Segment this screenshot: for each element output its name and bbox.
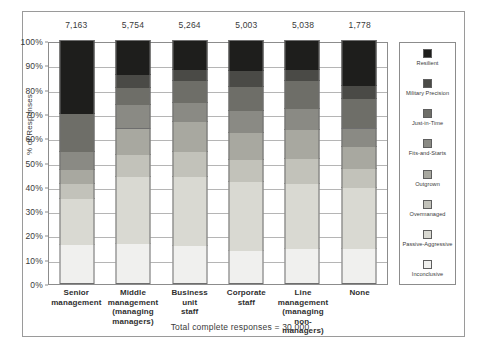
x-axis-label-line: Middle	[106, 288, 161, 298]
bar-segment[interactable]	[116, 243, 151, 284]
y-tick-mark	[45, 236, 48, 237]
bar-segment[interactable]	[341, 40, 376, 86]
bar-segment[interactable]	[116, 87, 151, 105]
y-tick-mark	[45, 187, 48, 188]
bar-segment[interactable]	[116, 40, 151, 75]
bar-segment[interactable]	[116, 104, 151, 128]
y-tick-mark	[45, 285, 48, 286]
stacked-bar[interactable]	[172, 43, 207, 284]
bar-segment[interactable]	[229, 86, 264, 111]
legend-item[interactable]: Fits-and-Starts	[400, 139, 455, 157]
y-tick-mark	[45, 139, 48, 140]
bar-slot	[105, 43, 161, 284]
bar-segment[interactable]	[229, 132, 264, 160]
stacked-bar[interactable]	[285, 43, 320, 284]
bar-segment[interactable]	[285, 248, 320, 284]
legend-swatch-icon	[423, 109, 432, 118]
stacked-bar[interactable]	[341, 43, 376, 284]
legend-item[interactable]: Military Precision	[400, 79, 455, 97]
bar-segment[interactable]	[172, 102, 207, 122]
y-tick-mark	[45, 114, 48, 115]
bar-segment[interactable]	[116, 74, 151, 88]
bar-segment[interactable]	[229, 110, 264, 133]
bar-segment[interactable]	[172, 121, 207, 151]
x-axis-label-line: management	[276, 298, 331, 308]
bar-segment[interactable]	[116, 154, 151, 177]
bar-segment[interactable]	[172, 176, 207, 246]
legend-swatch-icon	[423, 260, 432, 269]
x-axis-label-line: management	[106, 298, 161, 308]
y-tick-label: 20%	[25, 231, 43, 241]
legend-item[interactable]: Overmanaged	[400, 200, 455, 218]
legend-item[interactable]: Outgrown	[400, 170, 455, 188]
legend-label: Fits-and-Starts	[400, 150, 455, 157]
column-total: 7,163	[48, 18, 105, 32]
bar-segment[interactable]	[60, 151, 95, 170]
bar-segment[interactable]	[229, 250, 264, 284]
legend-item[interactable]: Resilient	[400, 49, 455, 67]
bar-slot	[162, 43, 218, 284]
bar-segment[interactable]	[229, 70, 264, 87]
stacked-bar-chart: 7,1635,7545,2645,0035,0381,778 % of Resp…	[0, 0, 478, 349]
bar-segment[interactable]	[285, 183, 320, 248]
legend-label: Just-in-Time	[400, 120, 455, 127]
bar-segment[interactable]	[172, 151, 207, 178]
bars-layer	[49, 43, 387, 284]
bar-segment[interactable]	[60, 183, 95, 199]
bar-segment[interactable]	[229, 40, 264, 71]
legend-label: Passive-Aggressive	[400, 241, 455, 248]
legend-item[interactable]: Inconclusive	[400, 260, 455, 278]
bar-segment[interactable]	[172, 69, 207, 81]
x-axis-label-line: Line	[276, 288, 331, 298]
bar-slot	[218, 43, 274, 284]
y-tick-mark	[45, 163, 48, 164]
bar-segment[interactable]	[285, 129, 320, 159]
x-axis-label-line: (managing	[106, 307, 161, 317]
stacked-bar[interactable]	[229, 43, 264, 284]
bar-segment[interactable]	[341, 248, 376, 284]
bar-segment[interactable]	[229, 159, 264, 182]
y-tick-mark	[45, 212, 48, 213]
stacked-bar[interactable]	[60, 43, 95, 284]
stacked-bar[interactable]	[116, 43, 151, 284]
bar-segment[interactable]	[172, 245, 207, 284]
y-tick-label: 50%	[25, 159, 43, 169]
bar-segment[interactable]	[172, 80, 207, 103]
legend-item[interactable]: Just-in-Time	[400, 109, 455, 127]
bar-segment[interactable]	[60, 113, 95, 152]
bar-segment[interactable]	[341, 98, 376, 128]
bar-segment[interactable]	[116, 128, 151, 156]
column-total: 5,264	[161, 18, 218, 32]
bar-segment[interactable]	[60, 40, 95, 114]
bar-segment[interactable]	[285, 108, 320, 130]
bar-slot	[49, 43, 105, 284]
y-tick-label: 60%	[25, 134, 43, 144]
legend-swatch-icon	[423, 170, 432, 179]
x-axis-label-line: Senior	[49, 288, 104, 298]
bar-segment[interactable]	[60, 198, 95, 245]
bar-segment[interactable]	[229, 181, 264, 251]
bar-segment[interactable]	[341, 146, 376, 169]
bar-segment[interactable]	[285, 69, 320, 81]
y-tick-label: 70%	[25, 110, 43, 120]
bar-segment[interactable]	[341, 128, 376, 147]
bar-segment[interactable]	[341, 168, 376, 188]
bar-segment[interactable]	[341, 85, 376, 99]
x-axis-label-line: staff	[219, 298, 274, 308]
bar-segment[interactable]	[285, 80, 320, 109]
x-axis-label-line: (managing	[276, 307, 331, 317]
bar-segment[interactable]	[60, 169, 95, 185]
legend-swatch-icon	[423, 79, 432, 88]
legend-item[interactable]: Passive-Aggressive	[400, 230, 455, 248]
bar-segment[interactable]	[285, 158, 320, 185]
bar-segment[interactable]	[341, 187, 376, 249]
bar-segment[interactable]	[60, 244, 95, 284]
bar-segment[interactable]	[116, 176, 151, 244]
bar-segment[interactable]	[172, 40, 207, 70]
column-total: 5,754	[105, 18, 162, 32]
bar-segment[interactable]	[285, 40, 320, 70]
legend-swatch-icon	[423, 230, 432, 239]
y-tick-label: 0%	[30, 280, 43, 290]
column-total: 5,003	[218, 18, 275, 32]
x-axis-label-line: Business	[162, 288, 217, 298]
